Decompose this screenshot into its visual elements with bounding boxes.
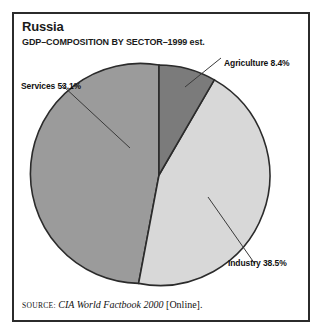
source-suffix: [Online]. (166, 299, 202, 310)
figure-container: Russia GDP–COMPOSITION BY SECTOR–1999 es… (0, 0, 323, 335)
source-label: SOURCE: (22, 301, 56, 310)
pie-slice-services (30, 63, 159, 283)
source-line: SOURCE: CIA World Factbook 2000 [Online]… (22, 299, 202, 310)
pie-label-agriculture: Agriculture 8.4% (224, 58, 289, 68)
pie-label-industry: Industry 38.5% (228, 258, 287, 268)
pie-label-services: Services 53.1% (21, 81, 81, 91)
source-title: CIA World Factbook 2000 (58, 299, 163, 310)
